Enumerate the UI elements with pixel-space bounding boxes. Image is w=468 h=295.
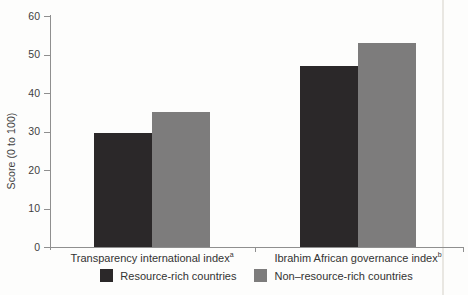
- y-axis-line: [50, 15, 51, 250]
- y-tick: [44, 16, 50, 17]
- legend-item-resource-rich: Resource-rich countries: [100, 269, 236, 282]
- y-tick-label: 10: [10, 202, 40, 214]
- legend-label: Resource-rich countries: [120, 270, 236, 282]
- y-tick: [44, 132, 50, 133]
- legend-label: Non–resource-rich countries: [274, 270, 412, 282]
- y-tick-label: 60: [10, 10, 40, 22]
- y-tick-label: 40: [10, 87, 40, 99]
- footnote-superscript: a: [230, 251, 234, 258]
- bar-resource-rich-2: [300, 66, 358, 247]
- bar-non-resource-rich-1: [152, 112, 210, 247]
- chart-figure: Score (0 to 100) Resource-rich countries…: [0, 0, 468, 295]
- legend-item-non-resource-rich: Non–resource-rich countries: [254, 269, 412, 282]
- footnote-superscript: b: [438, 251, 442, 258]
- legend-swatch: [100, 269, 113, 282]
- y-tick: [44, 170, 50, 171]
- y-tick: [44, 247, 50, 248]
- y-tick: [44, 93, 50, 94]
- legend-swatch: [254, 269, 267, 282]
- scan-artifact-line: [442, 0, 444, 295]
- bar-resource-rich-1: [94, 133, 152, 247]
- category-label-2: Ibrahim African governance indexb: [274, 252, 441, 264]
- y-tick: [44, 55, 50, 56]
- y-tick-label: 0: [10, 241, 40, 253]
- y-tick-label: 50: [10, 48, 40, 60]
- legend: Resource-rich countriesNon–resource-rich…: [50, 269, 463, 282]
- x-tick: [255, 247, 256, 252]
- y-tick-label: 20: [10, 164, 40, 176]
- x-axis-line: [50, 247, 464, 248]
- y-tick: [44, 209, 50, 210]
- y-tick-label: 30: [10, 125, 40, 137]
- category-label-1: Transparency international indexa: [70, 252, 233, 264]
- x-tick: [463, 247, 464, 252]
- bar-non-resource-rich-2: [358, 43, 416, 247]
